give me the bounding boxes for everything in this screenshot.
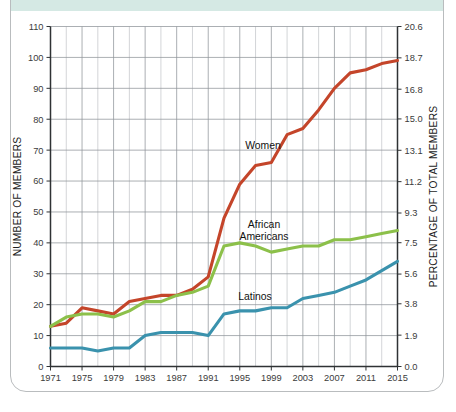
y-tick-label: 30 [33, 269, 43, 279]
series-label-latinos: Latinos [238, 291, 272, 302]
y2-tick-label: 16.8 [405, 85, 423, 95]
y2-tick-label: 13.1 [405, 146, 423, 156]
x-tick-label: 2011 [356, 373, 376, 383]
y-tick-label: 50 [33, 207, 43, 217]
y-tick-label: 110 [29, 22, 44, 32]
x-tick-label: 2003 [293, 373, 314, 383]
y-axis-right: 0.01.93.85.67.59.311.213.115.016.818.720… [398, 22, 423, 372]
series-label-women: Women [245, 140, 281, 151]
y2-tick-label: 18.7 [405, 53, 423, 63]
x-tick-label: 1991 [198, 373, 219, 383]
x-tick-label: 1983 [135, 373, 156, 383]
y-tick-label: 0 [38, 362, 43, 372]
y-tick-label: 80 [33, 115, 43, 125]
y2-tick-label: 11.2 [405, 177, 422, 187]
x-tick-label: 1971 [40, 373, 61, 383]
y2-tick-label: 15.0 [405, 114, 423, 124]
x-axis: 1971197519791983198719911995199920032007… [40, 367, 408, 384]
line-chart-canvas: 01020304050607080901001100.01.93.85.67.5… [0, 0, 456, 412]
y-tick-label: 100 [28, 53, 44, 63]
y2-tick-label: 1.9 [405, 331, 418, 341]
x-tick-label: 1999 [261, 373, 282, 383]
y2-tick-label: 20.6 [405, 22, 423, 32]
y2-tick-label: 0.0 [405, 362, 418, 372]
y-tick-label: 90 [33, 84, 43, 94]
x-tick-label: 1979 [103, 373, 124, 383]
y2-tick-label: 7.5 [405, 238, 418, 248]
y-tick-label: 70 [33, 146, 43, 156]
y2-tick-label: 3.8 [405, 299, 418, 309]
x-tick-label: 1995 [229, 373, 250, 383]
x-tick-label: 2015 [387, 373, 408, 383]
y2-tick-label: 5.6 [405, 269, 418, 279]
y-tick-label: 60 [33, 176, 43, 186]
y-axis-left: 0102030405060708090100110 [28, 22, 51, 372]
y-tick-label: 20 [33, 300, 43, 310]
y2-axis-title: PERCENTAGE OF TOTAL MEMBERS [428, 106, 439, 288]
x-tick-label: 1975 [72, 373, 93, 383]
y2-tick-label: 9.3 [405, 208, 418, 218]
chart-figure: 01020304050607080901001100.01.93.85.67.5… [0, 0, 456, 412]
x-tick-label: 2007 [324, 373, 345, 383]
x-tick-label: 1987 [166, 373, 187, 383]
y-tick-label: 40 [33, 238, 43, 248]
y-axis-title: NUMBER OF MEMBERS [12, 137, 23, 257]
y-tick-label: 10 [33, 331, 43, 341]
